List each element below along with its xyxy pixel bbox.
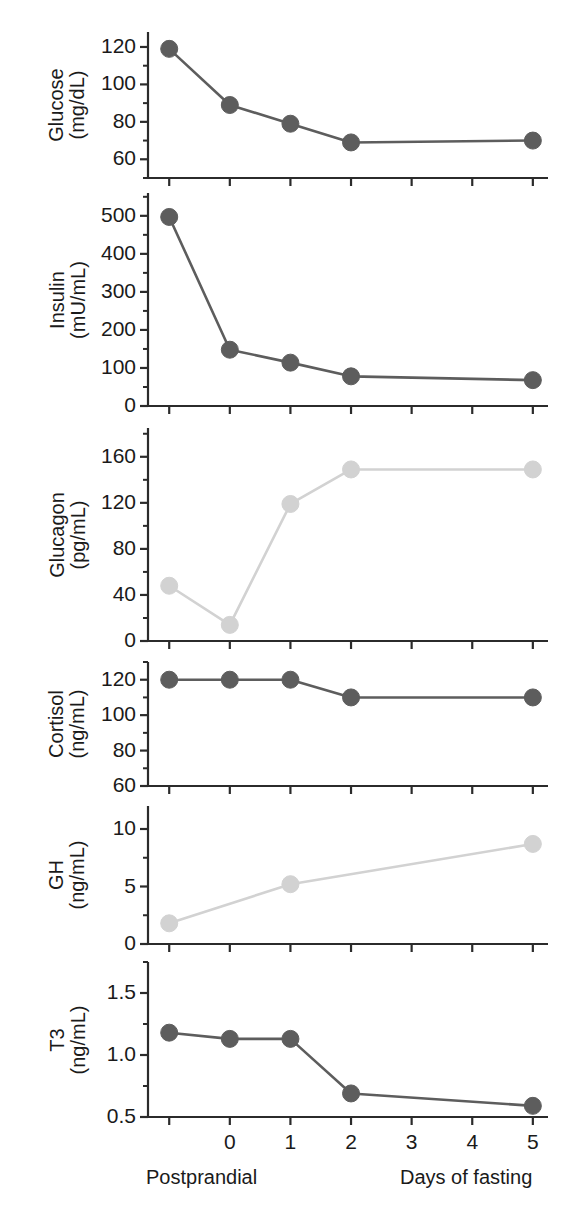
x-tick-label: 3 <box>392 1131 432 1152</box>
y-axis-title-t3: T3(ng/mL) <box>46 942 94 1137</box>
x-tick-label: 0 <box>210 1131 250 1152</box>
y-tick-label: 0.5 <box>107 1105 136 1126</box>
y-tick-label: 1.5 <box>107 981 136 1002</box>
data-point <box>282 1030 299 1047</box>
x-tick-label: 4 <box>452 1131 492 1152</box>
fasting-hormone-figure: 6080100120Glucose(mg/dL)0100200300400500… <box>0 0 587 1218</box>
y-tick-label: 1.0 <box>107 1043 136 1064</box>
x-axis-caption-right: Days of fasting <box>400 1167 532 1188</box>
x-tick-label: 2 <box>331 1131 371 1152</box>
x-tick-label: 5 <box>513 1131 553 1152</box>
data-point <box>161 1024 178 1041</box>
y-axis-title-line2: (ng/mL) <box>67 942 88 1137</box>
x-tick-label: 1 <box>270 1131 310 1152</box>
data-point <box>221 1030 238 1047</box>
y-axis-title-line1: T3 <box>46 942 67 1137</box>
data-point <box>343 1085 360 1102</box>
data-point <box>524 1097 541 1114</box>
x-axis-caption-left: Postprandial <box>146 1167 257 1188</box>
